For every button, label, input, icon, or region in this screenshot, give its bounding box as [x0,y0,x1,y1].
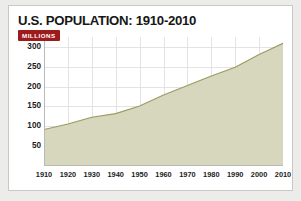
x-axis-tick-label: 1940 [107,171,123,178]
x-axis-tick-label: 2010 [275,171,291,178]
y-axis-tick-label: 200 [17,83,41,91]
x-axis-tick-label: 1990 [227,171,243,178]
x-axis-tick-label: 1920 [60,171,76,178]
screenshot-root: U.S. POPULATION: 1910-2010 MILLIONS 5010… [0,0,301,201]
y-axis-tick-labels: 50100150200250300 [13,37,41,166]
chart-card: U.S. POPULATION: 1910-2010 MILLIONS 5010… [8,5,293,191]
units-badge: MILLIONS [18,30,60,41]
page-title: U.S. POPULATION: 1910-2010 [18,13,196,28]
x-axis-tick-labels: 1910192019301940195019601970198019902000… [44,171,283,185]
x-axis-tick-label: 1950 [131,171,147,178]
population-area-chart [44,37,283,166]
y-axis-tick-label: 150 [17,102,41,110]
y-axis-tick-label: 300 [17,43,41,51]
area-series-fill [44,43,283,166]
x-axis-tick-label: 1960 [155,171,171,178]
x-axis-tick-label: 2000 [251,171,267,178]
y-axis-tick-label: 100 [17,122,41,130]
x-axis-tick-label: 1910 [36,171,52,178]
plot-area [44,37,283,166]
x-axis-tick-label: 1930 [84,171,100,178]
y-axis-tick-label: 50 [17,142,41,150]
x-axis-tick-label: 1970 [179,171,195,178]
y-axis-tick-label: 250 [17,63,41,71]
x-axis-tick-label: 1980 [203,171,219,178]
